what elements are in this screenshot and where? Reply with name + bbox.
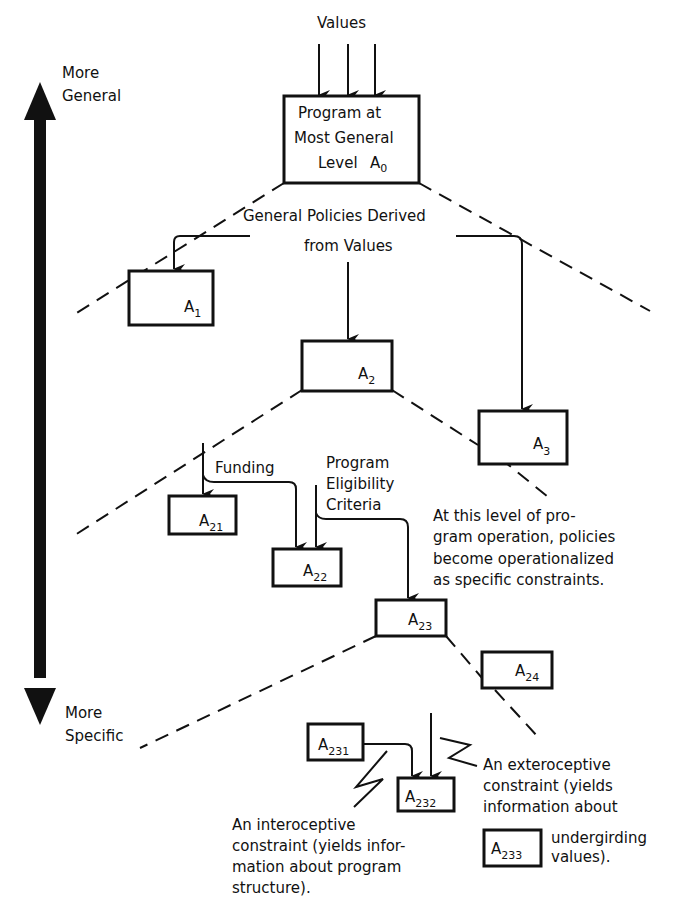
generality-axis [24, 82, 56, 725]
node-a23: A23 [376, 600, 446, 636]
svg-text:At this level of pro-: At this level of pro- [433, 507, 576, 525]
eligibility-label-line2: Eligibility [326, 475, 394, 493]
interoceptive-note: An interoceptive constraint (yields info… [232, 816, 405, 897]
node-a21: A21 [169, 496, 236, 534]
arrow-up-icon [24, 82, 56, 120]
svg-text:undergirding: undergirding [551, 829, 647, 847]
svg-text:An exteroceptive: An exteroceptive [483, 756, 611, 774]
level3-boundary-right-b [495, 690, 538, 737]
exteroceptive-zigzag-icon [440, 738, 477, 766]
svg-text:An interoceptive: An interoceptive [232, 816, 356, 834]
svg-text:structure).: structure). [232, 879, 311, 897]
node-a3: A3 [479, 411, 567, 464]
root-line2: Most General [294, 129, 394, 147]
axis-bottom-label-line2: Specific [65, 727, 123, 745]
level2-boundary-right-a [392, 390, 478, 445]
svg-text:as specific constraints.: as specific constraints. [433, 571, 604, 589]
node-a231: A231 [308, 724, 363, 760]
hierarchy-diagram: More General More Specific Values Progra… [0, 0, 677, 917]
operational-note: At this level of pro- gram operation, po… [433, 507, 615, 589]
node-a0: Program at Most General Level A0 [284, 96, 419, 183]
level1-boundary-right [419, 183, 650, 311]
level3-boundary-right-a [446, 636, 482, 678]
node-a2: A2 [302, 341, 392, 391]
svg-text:mation about program: mation about program [232, 858, 401, 876]
svg-text:become operationalized: become operationalized [433, 550, 614, 568]
arrow-down-icon [24, 688, 56, 725]
values-label: Values [317, 14, 366, 32]
node-a1: A1 [129, 271, 213, 325]
policies-label-line1: General Policies Derived [243, 207, 426, 225]
svg-text:constraint (yields infor-: constraint (yields infor- [232, 837, 405, 855]
svg-text:constraint (yields: constraint (yields [483, 777, 613, 795]
node-a22: A22 [273, 549, 341, 586]
eligibility-label-line1: Program [326, 454, 389, 472]
eligibility-label-line3: Criteria [326, 496, 381, 514]
svg-text:values).: values). [551, 848, 610, 866]
root-line3: Level [318, 154, 358, 172]
policy-arrow-a3 [456, 236, 522, 409]
funding-label: Funding [215, 459, 275, 477]
policy-arrow-a1 [174, 236, 250, 269]
policies-label-line2: from Values [304, 237, 393, 255]
axis-bottom-label-line1: More [65, 704, 102, 722]
axis-top-label-line1: More [62, 64, 99, 82]
svg-text:information about: information about [483, 798, 618, 816]
svg-text:gram operation, policies: gram operation, policies [433, 528, 615, 546]
root-line1: Program at [298, 104, 381, 122]
node-a233: A233 [484, 830, 541, 866]
axis-top-label-line2: General [62, 87, 121, 105]
node-a24: A24 [482, 652, 552, 688]
axis-shaft [34, 118, 46, 678]
node-a232: A232 [398, 778, 454, 811]
